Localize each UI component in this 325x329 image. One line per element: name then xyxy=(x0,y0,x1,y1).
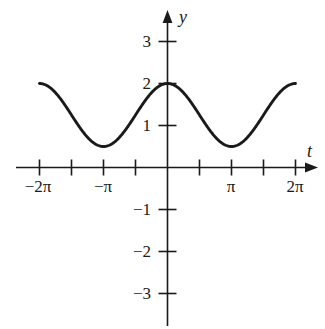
y-axis-arrowhead xyxy=(163,10,173,23)
y-tick-label-neg-3: −3 xyxy=(118,285,151,302)
x-axis-label: t xyxy=(307,142,312,160)
y-tick-label-neg-2: −2 xyxy=(118,243,151,260)
y-tick-label-2: 2 xyxy=(125,75,151,92)
x-tick-label-neg-pi: −π xyxy=(94,178,112,195)
x-tick-label-2pi: 2π xyxy=(286,178,303,195)
x-axis-arrowhead xyxy=(305,163,318,173)
y-tick-label-3: 3 xyxy=(125,33,151,50)
y-tick-label-1: 1 xyxy=(125,117,151,134)
x-tick-label-neg-2pi: −2π xyxy=(25,178,52,195)
y-tick-label-neg-1: −1 xyxy=(118,201,151,218)
x-tick-label-pi: π xyxy=(227,178,236,195)
coordinate-plane xyxy=(0,0,325,329)
graph-figure: −2π −π π 2π 3 2 1 −1 −2 −3 y t xyxy=(0,0,325,329)
y-axis-label: y xyxy=(179,8,187,26)
